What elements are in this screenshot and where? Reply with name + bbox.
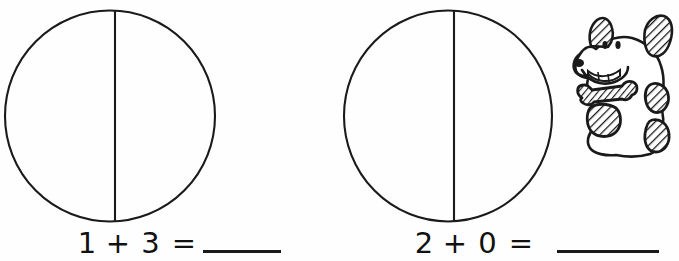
circle-divided-in-half-1: [3, 8, 218, 224]
dog-front-paw: [587, 104, 620, 136]
circle-outline-1: [5, 11, 215, 222]
operator-plus-problem-1: +: [100, 229, 136, 258]
dog-right-ear: [644, 16, 672, 57]
worksheet-page: 1 + 3 = 2 + 0 =: [0, 0, 679, 261]
equals-sign-problem-1: =: [165, 229, 203, 258]
dog-tooth-line-2: [608, 74, 609, 82]
dog-right-eye: [615, 41, 620, 49]
addend-1-problem-1: 1: [74, 229, 100, 258]
addend-1-problem-2: 2: [411, 229, 437, 258]
circle-graphic-1: [3, 8, 218, 224]
dog-body-group: [574, 16, 672, 157]
circle-divided-in-half-2: [342, 8, 555, 224]
addend-2-problem-2: 0: [473, 229, 502, 258]
operator-plus-problem-2: +: [437, 229, 473, 258]
dog-left-ear: [590, 18, 613, 47]
equation-2: 2 + 0 =: [411, 228, 659, 258]
addend-2-problem-1: 3: [136, 229, 165, 258]
problem-2: [342, 8, 555, 224]
circle-graphic-2: [342, 8, 555, 224]
equation-1: 1 + 3 =: [74, 228, 281, 258]
dog-hind-paw: [645, 120, 669, 152]
answer-blank-problem-2[interactable]: [557, 228, 659, 253]
problem-1: [3, 8, 218, 224]
circle-outline-2: [344, 11, 552, 222]
dog-left-eye: [602, 41, 607, 49]
equals-sign-problem-2: =: [502, 229, 540, 258]
dog-tooth-line-1: [598, 72, 599, 80]
dog-shoulder-patch: [645, 83, 668, 112]
dog-nose: [574, 59, 584, 67]
dog-with-bone-illustration: [560, 4, 679, 166]
answer-blank-problem-1[interactable]: [203, 228, 281, 253]
dog-graphic: [560, 4, 679, 166]
